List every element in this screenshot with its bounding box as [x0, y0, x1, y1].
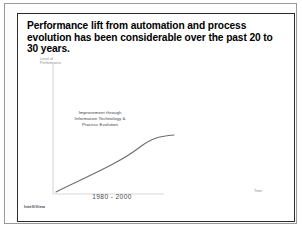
footer-brand-label: IntelliView	[24, 204, 45, 209]
slide-inner-frame: Performance lift from automation and pro…	[17, 13, 295, 222]
curve-annotation-label: Improvement through Information Technolo…	[57, 110, 143, 129]
period-range-label: 1980 - 2000	[67, 193, 157, 200]
slide-outer-frame: Performance lift from automation and pro…	[4, 3, 297, 224]
performance-curve-chart: Level of Performance Improvement through…	[18, 14, 295, 222]
performance-curve	[56, 135, 174, 192]
y-axis-label: Level of Performance	[40, 57, 74, 66]
x-axis-label: Time	[254, 189, 284, 193]
